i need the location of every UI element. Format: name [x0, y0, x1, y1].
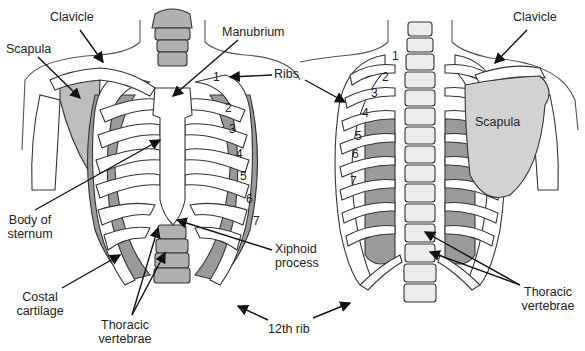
svg-text:6: 6 [246, 192, 253, 206]
svg-text:7: 7 [253, 214, 260, 228]
label-ribs: Ribs [274, 67, 299, 81]
svg-text:6: 6 [352, 147, 359, 161]
label-clavicle-posterior: Clavicle [513, 10, 557, 24]
rib-cage-diagram: 1 2 3 4 5 6 7 1 2 3 4 5 6 7 [0, 0, 585, 351]
label-thoracic-vertebrae-posterior: Thoracic vertebrae [518, 285, 578, 313]
svg-text:1: 1 [392, 49, 399, 63]
svg-text:2: 2 [225, 101, 232, 115]
label-thoracic-vertebrae-anterior: Thoracic vertebrae [95, 318, 155, 346]
svg-text:5: 5 [240, 169, 247, 183]
svg-text:7: 7 [350, 174, 357, 188]
svg-text:4: 4 [362, 106, 369, 120]
svg-text:1: 1 [213, 70, 220, 84]
anterior-view [22, 9, 300, 285]
label-clavicle-anterior: Clavicle [50, 10, 94, 24]
svg-text:3: 3 [229, 122, 236, 136]
label-manubrium: Manubrium [222, 25, 285, 39]
label-scapula-anterior: Scapula [6, 42, 51, 56]
svg-text:3: 3 [371, 86, 378, 100]
label-scapula-posterior: Scapula [475, 115, 520, 129]
label-12th-rib: 12th rib [268, 322, 310, 336]
posterior-view [300, 20, 578, 302]
svg-text:4: 4 [236, 147, 243, 161]
label-xiphoid-process: Xiphoid process [275, 242, 319, 270]
svg-text:5: 5 [355, 129, 362, 143]
svg-text:2: 2 [382, 70, 389, 84]
label-costal-cartilage: Costal cartilage [14, 290, 66, 318]
label-body-of-sternum: Body of sternum [5, 213, 55, 241]
